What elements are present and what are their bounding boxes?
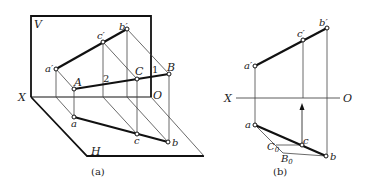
line-a-prime-b-prime-b: [255, 28, 327, 66]
label-b-prime: b′: [119, 21, 128, 32]
label-c-prime: c′: [97, 30, 106, 41]
arrow-up-icon: [300, 103, 305, 110]
label-a: a: [71, 118, 77, 129]
label-B0-main: B: [280, 153, 288, 164]
point-a-prime-b: [253, 64, 257, 68]
label-B: B: [166, 61, 175, 74]
label-a-prime: a′: [45, 63, 54, 74]
label-B0: B0: [280, 153, 293, 166]
line-AB: [74, 74, 169, 89]
line-ab: [74, 117, 168, 142]
point-a-b: [253, 123, 257, 127]
label-C0: C0: [267, 141, 280, 154]
point-a-prime: [54, 67, 58, 71]
label-b: b: [172, 137, 178, 148]
label-B0-sub: 0: [288, 158, 293, 166]
label-ratio-2: 2: [103, 73, 109, 84]
label-c: c: [134, 135, 140, 146]
label-V: V: [34, 18, 43, 31]
label-A: A: [73, 76, 82, 89]
projection-diagram: V H X O a′ c′ b′ A C B 2 1 a c b (a) X O: [0, 0, 365, 193]
label-O: O: [153, 89, 162, 102]
label-c-b: c: [303, 135, 309, 146]
point-b-b: [324, 154, 328, 158]
line-ab-b: [255, 125, 326, 156]
label-a-b: a: [245, 119, 251, 130]
label-X-b: X: [223, 92, 233, 105]
label-b-prime-b: b′: [319, 17, 328, 28]
label-X: X: [17, 91, 27, 104]
label-O-b: O: [343, 92, 352, 105]
label-b-b: b: [330, 151, 336, 162]
label-C: C: [135, 65, 144, 78]
projector-a-prime-A: [56, 69, 74, 89]
projector-a-fold: [56, 97, 74, 117]
label-a-prime-b: a′: [244, 60, 253, 71]
label-c-prime-b: c′: [297, 28, 306, 39]
line-a-prime-b-prime: [56, 29, 127, 69]
point-b: [166, 140, 170, 144]
caption-a: (a): [91, 166, 105, 177]
label-ratio-1: 1: [152, 64, 158, 75]
caption-b: (b): [273, 166, 287, 177]
panel-a: V H X O a′ c′ b′ A C B 2 1 a c b (a): [17, 16, 204, 177]
v-plane-frame: [31, 16, 151, 97]
panel-b: X O a′ c′ b′ a c b C0 B0 (b): [223, 17, 352, 177]
projector-b-prime-B: [127, 29, 169, 74]
label-H: H: [90, 145, 101, 158]
label-C0-sub: 0: [275, 146, 280, 154]
